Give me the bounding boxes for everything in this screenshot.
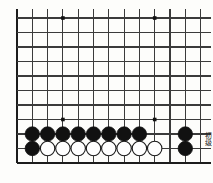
star-top-right-point bbox=[153, 16, 157, 20]
figure-caption: 初级 bbox=[200, 132, 212, 146]
star-bottom-right-point bbox=[153, 118, 157, 122]
white-stone[interactable] bbox=[117, 141, 131, 155]
white-stone[interactable] bbox=[102, 141, 116, 155]
black-stone[interactable] bbox=[40, 127, 54, 141]
white-stone[interactable] bbox=[148, 141, 162, 155]
black-stone[interactable] bbox=[56, 127, 70, 141]
black-stone[interactable] bbox=[71, 127, 85, 141]
black-stone[interactable] bbox=[25, 141, 39, 155]
white-stone[interactable] bbox=[132, 141, 146, 155]
black-stone[interactable] bbox=[102, 127, 116, 141]
star-top-left-point bbox=[61, 16, 65, 20]
star-bottom-left-point bbox=[61, 118, 65, 122]
white-stone[interactable] bbox=[86, 141, 100, 155]
black-stone[interactable] bbox=[86, 127, 100, 141]
stones-layer[interactable] bbox=[25, 127, 192, 156]
goban-grid[interactable] bbox=[0, 0, 213, 183]
black-stone[interactable] bbox=[117, 127, 131, 141]
black-stone[interactable] bbox=[132, 127, 146, 141]
go-board-figure: 初级 bbox=[0, 0, 213, 183]
white-stone[interactable] bbox=[40, 141, 54, 155]
white-stone[interactable] bbox=[71, 141, 85, 155]
white-stone[interactable] bbox=[56, 141, 70, 155]
black-stone[interactable] bbox=[178, 141, 192, 155]
black-stone[interactable] bbox=[25, 127, 39, 141]
black-stone[interactable] bbox=[178, 127, 192, 141]
